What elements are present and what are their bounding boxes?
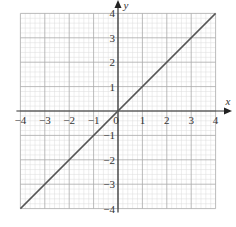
x-tick-label: −3: [39, 114, 51, 126]
x-tick-label: 4: [213, 114, 219, 126]
x-tick-label: 0: [113, 114, 119, 126]
y-tick-label: −2: [103, 154, 115, 166]
y-axis-arrow-icon: [115, 0, 122, 8]
x-axis-arrow-icon: [224, 108, 232, 115]
x-tick-label: −2: [63, 114, 75, 126]
y-tick-label: 3: [110, 32, 116, 44]
x-tick-label: −4: [15, 114, 27, 126]
y-axis-label: y: [123, 0, 129, 11]
y-tick-label: 4: [110, 7, 116, 19]
x-tick-label: −1: [88, 114, 100, 126]
x-axis-label: x: [225, 95, 231, 107]
y-tick-label: 2: [110, 56, 116, 68]
y-tick-label: −4: [103, 203, 115, 215]
x-tick-label: 3: [188, 114, 194, 126]
line-chart: −4−3−2−101234−4−3−2−11234xy: [0, 0, 236, 227]
x-tick-label: 2: [164, 114, 170, 126]
y-tick-label: −3: [103, 178, 115, 190]
y-tick-label: −1: [103, 129, 115, 141]
x-tick-label: 1: [140, 114, 146, 126]
y-tick-label: 1: [110, 81, 116, 93]
